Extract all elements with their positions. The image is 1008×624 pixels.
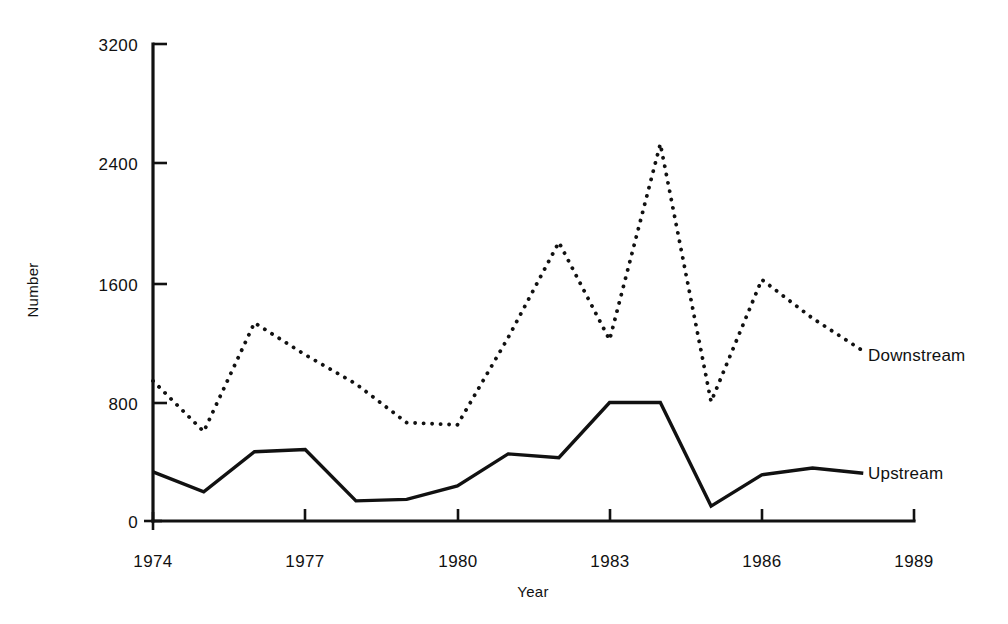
series-line-upstream bbox=[153, 403, 863, 507]
x-tick-label-1974: 1974 bbox=[133, 552, 172, 571]
y-tick-label-3200: 3200 bbox=[99, 36, 138, 55]
x-tick-label-1986: 1986 bbox=[742, 552, 781, 571]
chart-screenshot: 3200 2400 1600 800 0 1974 1977 1980 1983… bbox=[0, 0, 1008, 624]
x-tick-label-1977: 1977 bbox=[285, 552, 324, 571]
x-tick-label-1989: 1989 bbox=[894, 552, 933, 571]
line-chart: 3200 2400 1600 800 0 1974 1977 1980 1983… bbox=[0, 0, 1008, 624]
x-tick-label-1980: 1980 bbox=[438, 552, 477, 571]
y-tick-label-0: 0 bbox=[128, 513, 138, 532]
y-tick-label-800: 800 bbox=[108, 395, 138, 414]
x-axis-title: Year bbox=[517, 583, 549, 600]
y-tick-label-2400: 2400 bbox=[99, 155, 138, 174]
series-label-downstream: Downstream bbox=[868, 346, 965, 365]
series-line-downstream bbox=[153, 144, 863, 432]
x-tick-label-1983: 1983 bbox=[590, 552, 629, 571]
y-tick-label-1600: 1600 bbox=[99, 276, 138, 295]
y-axis-title: Number bbox=[24, 262, 41, 317]
series-label-upstream: Upstream bbox=[868, 464, 943, 483]
